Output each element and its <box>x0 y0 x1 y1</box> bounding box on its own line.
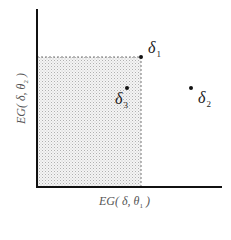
subscript: 2 <box>206 99 211 109</box>
point-delta1 <box>139 55 143 59</box>
label-theta: θ <box>14 84 28 90</box>
x-axis-label: EG( δ, θ1 ) <box>99 195 150 210</box>
label-delta1: δ1 <box>148 40 161 59</box>
subscript: 1 <box>156 49 161 59</box>
label-delta3: δ3 <box>115 91 128 110</box>
label-sep: , <box>14 89 28 95</box>
label-sub: 2 <box>22 80 30 84</box>
point-delta2 <box>189 86 193 90</box>
label-delta2: δ2 <box>198 90 211 109</box>
point-delta3 <box>125 86 129 90</box>
y-axis-label: EG( δ, θ2 ) <box>15 67 30 131</box>
label-prefix: EG( <box>14 101 28 124</box>
label-delta: δ <box>14 95 28 101</box>
shaded-region <box>37 57 141 187</box>
delta-symbol: δ <box>148 39 155 56</box>
label-prefix: EG( <box>99 194 122 208</box>
delta-symbol: δ <box>198 89 205 106</box>
label-suffix: ) <box>14 73 28 80</box>
subscript: 3 <box>123 100 128 110</box>
delta-symbol: δ <box>115 90 122 107</box>
label-suffix: ) <box>143 194 150 208</box>
